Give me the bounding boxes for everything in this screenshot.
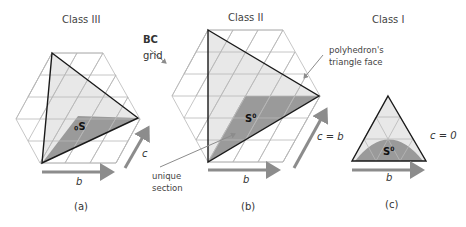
c-label-a: c: [142, 148, 148, 159]
face-label-2: triangle face: [329, 57, 383, 68]
panel-b-title: Class II: [228, 12, 263, 23]
unique-section-label-2: section: [152, 183, 183, 194]
caption-b: (b): [241, 201, 255, 212]
panel-b-class-ii: [150, 30, 326, 170]
face-pointer: [304, 55, 323, 78]
panel-a-title: Class III: [62, 14, 100, 25]
bc-grid-label: grid: [143, 50, 163, 61]
diagram-canvas: [0, 0, 466, 227]
panel-a-class-iii: [16, 53, 148, 172]
c-label-c: c = 0: [430, 130, 457, 141]
s0-label-a: S0: [74, 120, 85, 132]
caption-a: (a): [74, 201, 88, 212]
bc-grid-b: [172, 30, 320, 162]
panel-c-title: Class I: [372, 14, 404, 25]
c-label-b: c = b: [317, 131, 344, 142]
bc-grid-label-bold: BC: [143, 34, 158, 45]
panel-c-class-i: [352, 96, 426, 170]
unique-section-label-1: unique: [152, 171, 181, 182]
caption-c: (c): [385, 199, 398, 210]
b-label-b: b: [243, 174, 249, 185]
s0-label-c: S0: [383, 145, 394, 157]
s0-label-b: S0: [245, 112, 256, 124]
b-label-c: b: [386, 172, 392, 183]
b-label-a: b: [76, 176, 82, 187]
face-label-1: polyhedron's: [329, 45, 384, 56]
